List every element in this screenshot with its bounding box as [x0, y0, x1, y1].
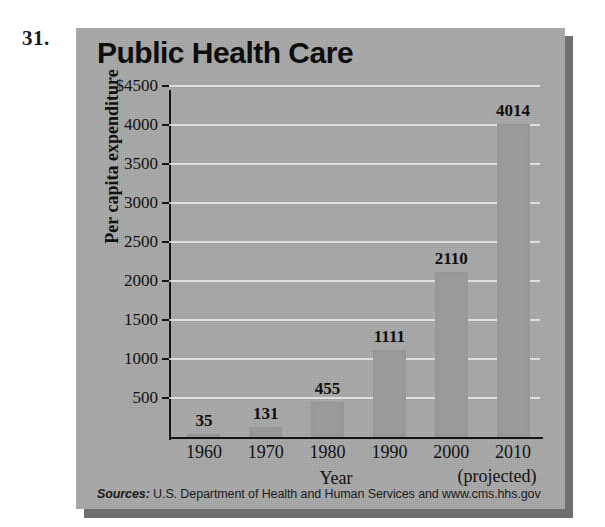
y-tick-label: 500	[133, 388, 159, 408]
x-tick-label-1980: 1980	[310, 442, 346, 463]
y-tick-mark	[162, 358, 169, 360]
y-tick-mark	[162, 163, 169, 165]
bar-1990	[373, 350, 406, 437]
y-tick-mark	[162, 319, 169, 321]
sources-note: Sources: U.S. Department of Health and H…	[97, 487, 541, 501]
bar-2000	[435, 272, 468, 437]
gridline	[169, 358, 540, 360]
bar-value-2010: 4014	[496, 101, 530, 121]
gridline	[169, 124, 540, 126]
x-tick-label-1970: 1970	[248, 442, 284, 463]
chart-title: Public Health Care	[97, 36, 353, 70]
y-tick-label: 2500	[124, 232, 158, 252]
y-tick-label: 1500	[124, 310, 158, 330]
gridline	[169, 397, 540, 399]
gridline	[169, 163, 540, 165]
chart-figure-panel: Public Health Care Per capita expenditur…	[76, 28, 565, 509]
y-tick-label: 3000	[124, 193, 158, 213]
sources-text: U.S. Department of Health and Human Serv…	[150, 487, 541, 501]
x-tick-label-1990: 1990	[371, 442, 407, 463]
bar-value-1960: 35	[195, 411, 212, 431]
bar-value-2000: 2110	[435, 249, 468, 269]
y-tick-label: 2000	[124, 271, 158, 291]
bar-value-1990: 1111	[374, 327, 405, 347]
gridline	[169, 85, 540, 87]
gridline	[169, 280, 540, 282]
x-tick-label-2000: 2000	[433, 442, 469, 463]
y-tick-mark	[162, 124, 169, 126]
x-tick-label-1960: 1960	[186, 442, 222, 463]
y-tick-label: $4500	[116, 76, 159, 96]
bar-value-1980: 455	[315, 379, 341, 399]
sources-label: Sources:	[97, 487, 150, 501]
gridline	[169, 241, 540, 243]
x-axis-title: Year	[319, 468, 352, 489]
x-tick-label-2010: 2010	[495, 442, 531, 463]
y-tick-mark	[162, 85, 169, 87]
y-tick-label: 4000	[124, 115, 158, 135]
gridline	[169, 202, 540, 204]
y-tick-label: 1000	[124, 349, 158, 369]
bar-1980	[311, 402, 344, 437]
problem-number: 31.	[22, 26, 50, 51]
gridline	[169, 319, 540, 321]
x-axis-line	[169, 437, 543, 439]
y-tick-mark	[162, 280, 169, 282]
bar-value-1970: 131	[253, 404, 279, 424]
bar-2010	[497, 124, 530, 437]
y-tick-mark	[162, 202, 169, 204]
plot-area: $450040003500300025002000150010005003513…	[169, 86, 540, 437]
y-tick-mark	[162, 241, 169, 243]
y-tick-label: 3500	[124, 154, 158, 174]
projected-annotation: (projected)	[458, 466, 537, 487]
bar-1970	[249, 427, 282, 437]
bar-1960	[187, 434, 220, 437]
y-tick-mark	[162, 397, 169, 399]
